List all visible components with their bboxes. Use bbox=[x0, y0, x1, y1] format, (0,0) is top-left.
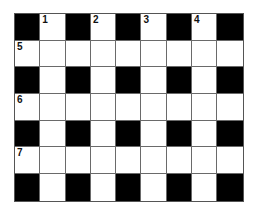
answer-cell[interactable] bbox=[40, 174, 65, 201]
answer-cell[interactable] bbox=[91, 94, 116, 121]
answer-cell[interactable] bbox=[91, 41, 116, 68]
answer-cell[interactable] bbox=[141, 174, 166, 201]
block-cell bbox=[217, 174, 242, 201]
answer-cell[interactable] bbox=[141, 121, 166, 148]
block-cell bbox=[167, 67, 192, 94]
block-cell bbox=[116, 121, 141, 148]
block-cell bbox=[116, 67, 141, 94]
answer-cell[interactable] bbox=[91, 147, 116, 174]
answer-cell[interactable] bbox=[40, 94, 65, 121]
answer-cell[interactable]: 6 bbox=[15, 94, 40, 121]
answer-cell[interactable] bbox=[91, 121, 116, 148]
answer-cell[interactable] bbox=[192, 67, 217, 94]
answer-cell[interactable] bbox=[66, 147, 91, 174]
answer-cell[interactable] bbox=[192, 41, 217, 68]
block-cell bbox=[15, 121, 40, 148]
block-cell bbox=[217, 14, 242, 41]
answer-cell[interactable] bbox=[40, 147, 65, 174]
answer-cell[interactable] bbox=[167, 41, 192, 68]
block-cell bbox=[116, 174, 141, 201]
answer-cell[interactable] bbox=[217, 147, 242, 174]
answer-cell[interactable] bbox=[91, 67, 116, 94]
block-cell bbox=[116, 14, 141, 41]
answer-cell[interactable] bbox=[66, 94, 91, 121]
answer-cell[interactable]: 5 bbox=[15, 41, 40, 68]
block-cell bbox=[15, 174, 40, 201]
clue-number: 3 bbox=[143, 15, 149, 25]
answer-cell[interactable] bbox=[217, 94, 242, 121]
answer-cell[interactable]: 4 bbox=[192, 14, 217, 41]
block-cell bbox=[66, 174, 91, 201]
answer-cell[interactable]: 7 bbox=[15, 147, 40, 174]
answer-cell[interactable] bbox=[66, 41, 91, 68]
block-cell bbox=[217, 67, 242, 94]
block-cell bbox=[15, 67, 40, 94]
clue-number: 4 bbox=[194, 15, 200, 25]
block-cell bbox=[167, 14, 192, 41]
answer-cell[interactable] bbox=[192, 174, 217, 201]
answer-cell[interactable]: 1 bbox=[40, 14, 65, 41]
block-cell bbox=[66, 14, 91, 41]
answer-cell[interactable] bbox=[141, 41, 166, 68]
answer-cell[interactable] bbox=[217, 41, 242, 68]
answer-cell[interactable] bbox=[192, 147, 217, 174]
block-cell bbox=[15, 14, 40, 41]
answer-cell[interactable] bbox=[167, 147, 192, 174]
clue-number: 1 bbox=[42, 15, 48, 25]
answer-cell[interactable] bbox=[116, 41, 141, 68]
answer-cell[interactable] bbox=[141, 67, 166, 94]
block-cell bbox=[66, 121, 91, 148]
answer-cell[interactable] bbox=[40, 67, 65, 94]
answer-cell[interactable] bbox=[141, 147, 166, 174]
answer-cell[interactable]: 2 bbox=[91, 14, 116, 41]
clue-number: 6 bbox=[17, 95, 23, 105]
answer-cell[interactable] bbox=[116, 147, 141, 174]
clue-number: 2 bbox=[93, 15, 99, 25]
answer-cell[interactable] bbox=[192, 94, 217, 121]
answer-cell[interactable] bbox=[192, 121, 217, 148]
answer-cell[interactable] bbox=[40, 121, 65, 148]
clue-number: 5 bbox=[17, 42, 23, 52]
answer-cell[interactable] bbox=[40, 41, 65, 68]
answer-cell[interactable] bbox=[91, 174, 116, 201]
block-cell bbox=[167, 174, 192, 201]
block-cell bbox=[66, 67, 91, 94]
block-cell bbox=[167, 121, 192, 148]
clue-number: 7 bbox=[17, 148, 23, 158]
answer-cell[interactable] bbox=[141, 94, 166, 121]
answer-cell[interactable] bbox=[167, 94, 192, 121]
answer-cell[interactable] bbox=[116, 94, 141, 121]
block-cell bbox=[217, 121, 242, 148]
answer-cell[interactable]: 3 bbox=[141, 14, 166, 41]
crossword-grid: 1234567 bbox=[14, 13, 244, 202]
